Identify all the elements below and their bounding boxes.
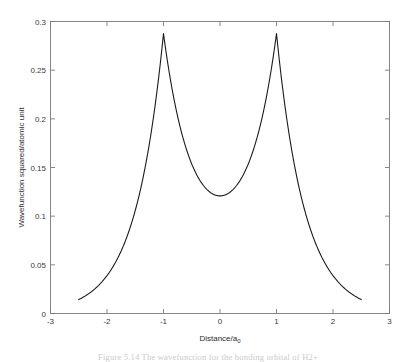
- x-tick-label-6: 3: [387, 317, 392, 326]
- y-tick-label-6: 0.3: [35, 18, 47, 27]
- x-tick-label-0: -3: [47, 317, 55, 326]
- y-tick-label-1: 0.05: [30, 261, 46, 270]
- x-tick-label-2: -1: [160, 317, 168, 326]
- y-tick-label-2: 0.1: [35, 212, 47, 221]
- y-tick-label-5: 0.25: [30, 66, 46, 75]
- plot-svg: -3-2-1012300.050.10.150.20.250.3Distance…: [0, 0, 416, 362]
- y-axis-title: Wavefunction squared/atomic unit: [17, 107, 26, 228]
- x-tick-label-4: 1: [274, 317, 279, 326]
- y-tick-label-0: 0: [42, 310, 47, 319]
- plot-frame: [51, 22, 390, 314]
- figure-container: -3-2-1012300.050.10.150.20.250.3Distance…: [0, 0, 416, 362]
- y-tick-label-4: 0.2: [35, 115, 47, 124]
- x-tick-label-5: 2: [331, 317, 336, 326]
- figure-caption: Figure 5.14 The wavefunction for the bon…: [0, 352, 416, 362]
- x-tick-label-3: 0: [218, 317, 223, 326]
- data-series-wavefunction-squared: [79, 33, 362, 299]
- x-tick-label-1: -2: [103, 317, 111, 326]
- y-tick-label-3: 0.15: [30, 164, 46, 173]
- x-axis-title: Distance/a0: [199, 334, 241, 344]
